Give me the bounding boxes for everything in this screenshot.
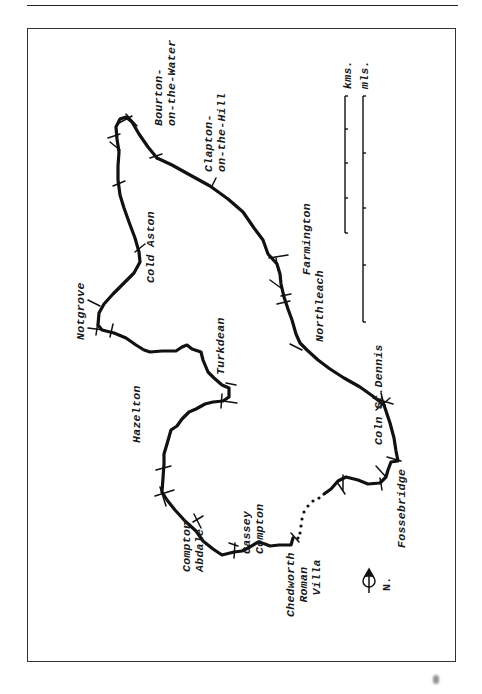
- place-label-hazelton: Hazelton: [130, 385, 143, 443]
- scan-smudge: [433, 675, 439, 684]
- place-label-chedworth-roman-villa: Chedworth Roman Villa: [284, 552, 323, 617]
- north-arrow-icon: [363, 569, 375, 593]
- place-label-coln-st-dennis: Coln St.Dennis: [372, 344, 385, 445]
- scale-bar-kms: [345, 96, 348, 233]
- dotted-path: [296, 496, 320, 539]
- scale-kms-label: kms.: [341, 60, 354, 89]
- north-label: N.: [380, 577, 393, 591]
- place-label-turkdean: Turkdean: [214, 317, 227, 375]
- place-label-notgrove: Notgrove: [74, 282, 87, 340]
- place-label-clapton: Clapton- on-the-Hill: [202, 93, 228, 172]
- place-label-compton-abdale: Compton Abdale: [180, 522, 206, 572]
- scale-bar-mls: [363, 96, 366, 322]
- place-label-fossebridge: Fossebridge: [395, 469, 408, 548]
- place-label-bourton: Bourton- on-the-Water: [152, 40, 178, 126]
- place-label-farmington: Farmington: [300, 203, 313, 275]
- route-ticks: [88, 114, 401, 558]
- place-label-cold-aston: Cold Aston: [144, 211, 157, 283]
- scale-mls-label: mls.: [358, 60, 371, 89]
- route-map: [0, 0, 482, 694]
- place-label-northleach: Northleach: [313, 270, 326, 342]
- route-path: [98, 117, 398, 555]
- place-label-cassey-compton: Cassey Compton: [240, 504, 266, 554]
